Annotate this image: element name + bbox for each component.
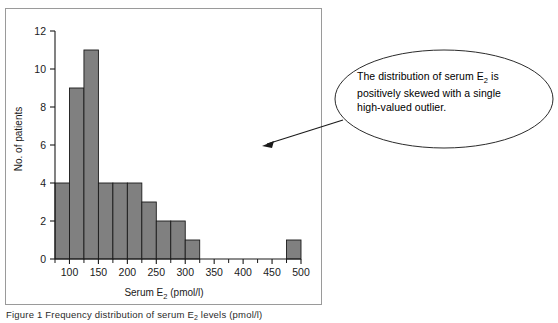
bar-series	[55, 50, 301, 259]
callout-line-1-tail: is	[488, 70, 499, 82]
y-tick-label: 12	[34, 25, 46, 37]
x-tick-label: 450	[263, 266, 281, 278]
figure-caption-tail: levels (pmol/l)	[198, 309, 262, 320]
histogram-chart: 100150200250300350400450500 024681012 Se…	[6, 9, 323, 306]
y-axis-title: No. of patients	[13, 107, 24, 171]
histogram-bar	[84, 50, 98, 259]
histogram-bar	[185, 240, 199, 259]
histogram-bar	[113, 183, 127, 259]
y-tick-label: 8	[40, 101, 46, 113]
histogram-bar	[171, 221, 185, 259]
figure-caption: Figure 1 Frequency distribution of serum…	[6, 309, 336, 322]
x-tick-label: 400	[234, 266, 252, 278]
x-tick-label: 300	[176, 266, 194, 278]
y-tick-label: 0	[40, 253, 46, 265]
x-tick-label: 500	[292, 266, 310, 278]
histogram-bar	[156, 221, 170, 259]
histogram-bar	[98, 183, 112, 259]
histogram-bar	[142, 202, 156, 259]
y-tick-label: 2	[40, 215, 46, 227]
x-axis-title: Serum E2 (pmol/l)	[124, 287, 203, 301]
callout-line-2: positively skewed with a single	[357, 87, 501, 99]
callout-line-1: The distribution of serum E	[357, 70, 484, 82]
figure-caption-subscript: 2	[194, 314, 198, 321]
callout-subscript: 2	[484, 76, 488, 85]
x-axis-ticks: 100150200250300350400450500	[55, 259, 310, 278]
histogram-bar	[55, 183, 69, 259]
x-tick-label: 350	[205, 266, 223, 278]
x-tick-label: 100	[61, 266, 79, 278]
x-tick-label: 150	[90, 266, 108, 278]
figure-caption-main: Figure 1 Frequency distribution of serum…	[6, 309, 194, 320]
x-tick-label: 250	[148, 266, 166, 278]
x-axis-title-main: Serum E	[124, 287, 163, 298]
figure-frame: 100150200250300350400450500 024681012 Se…	[5, 8, 322, 305]
x-tick-label: 200	[119, 266, 137, 278]
y-axis-ticks: 024681012	[34, 25, 55, 265]
histogram-bar	[287, 240, 301, 259]
y-tick-label: 4	[40, 177, 46, 189]
callout-text: The distribution of serum E2 is positive…	[357, 69, 535, 115]
histogram-bar	[69, 88, 83, 259]
y-tick-label: 6	[40, 139, 46, 151]
x-axis-title-tail: (pmol/l)	[167, 287, 203, 298]
histogram-bar	[127, 183, 141, 259]
callout-line-3: high-valued outlier.	[357, 101, 446, 113]
y-tick-label: 10	[34, 63, 46, 75]
